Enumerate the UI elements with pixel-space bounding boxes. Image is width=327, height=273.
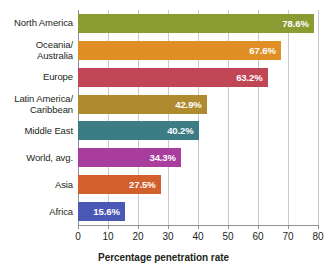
bar-row: Europe63.2% — [0, 64, 327, 91]
x-tick-label: 60 — [252, 231, 263, 242]
category-label-line: Latin America/ — [0, 94, 73, 105]
x-tick-20 — [138, 225, 139, 229]
category-label: Latin America/Caribbean — [0, 94, 73, 115]
bar[interactable]: 67.6% — [78, 41, 281, 60]
category-label: Africa — [0, 206, 73, 217]
bar-value-label: 34.3% — [149, 152, 180, 163]
bar-row: Asia27.5% — [0, 171, 327, 198]
category-label-line: Caribbean — [0, 104, 73, 115]
bar-value-label: 15.6% — [93, 206, 124, 217]
bar[interactable]: 78.6% — [78, 14, 314, 33]
category-label-line: Africa — [0, 206, 73, 217]
bar-value-label: 67.6% — [249, 45, 280, 56]
x-tick-70 — [288, 225, 289, 229]
category-label-line: North America — [0, 18, 73, 29]
bar-value-label: 63.2% — [236, 72, 267, 83]
x-tick-label: 70 — [282, 231, 293, 242]
bar-row: World, avg.34.3% — [0, 144, 327, 171]
category-label: Oceania/Australia — [0, 40, 73, 61]
category-label: North America — [0, 18, 73, 29]
x-tick-0 — [78, 225, 79, 229]
bar[interactable]: 63.2% — [78, 68, 268, 87]
bar-value-label: 78.6% — [282, 18, 313, 29]
x-tick-label: 20 — [132, 231, 143, 242]
bar-chart: North America78.6%Oceania/Australia67.6%… — [0, 0, 327, 273]
x-tick-30 — [168, 225, 169, 229]
cut-off-title-remnant — [120, 0, 320, 5]
bar-row: Oceania/Australia67.6% — [0, 37, 327, 64]
bar-wrapper: 67.6% — [78, 41, 318, 60]
bar-wrapper: 34.3% — [78, 148, 318, 167]
category-label: Europe — [0, 72, 73, 83]
x-tick-label: 30 — [162, 231, 173, 242]
bar-wrapper: 40.2% — [78, 121, 318, 140]
category-label-line: Asia — [0, 179, 73, 190]
bar-wrapper: 15.6% — [78, 202, 318, 221]
x-axis-title: Percentage penetration rate — [0, 252, 327, 263]
bar-rows: North America78.6%Oceania/Australia67.6%… — [0, 10, 327, 225]
category-label-line: Europe — [0, 72, 73, 83]
x-tick-label: 80 — [312, 231, 323, 242]
bar[interactable]: 40.2% — [78, 121, 199, 140]
bar-wrapper: 27.5% — [78, 175, 318, 194]
x-tick-label: 50 — [222, 231, 233, 242]
bar[interactable]: 15.6% — [78, 202, 125, 221]
x-tick-10 — [108, 225, 109, 229]
bar-value-label: 40.2% — [167, 125, 198, 136]
category-label: Asia — [0, 179, 73, 190]
x-tick-50 — [228, 225, 229, 229]
bar-row: Middle East40.2% — [0, 118, 327, 145]
bar[interactable]: 27.5% — [78, 175, 161, 194]
bar-row: North America78.6% — [0, 10, 327, 37]
bar-row: Africa15.6% — [0, 198, 327, 225]
x-tick-80 — [318, 225, 319, 229]
bar-wrapper: 63.2% — [78, 68, 318, 87]
x-tick-label: 40 — [192, 231, 203, 242]
bar[interactable]: 34.3% — [78, 148, 181, 167]
category-label-line: Australia — [0, 50, 73, 61]
x-tick-60 — [258, 225, 259, 229]
category-label-line: Oceania/ — [0, 40, 73, 51]
x-tick-label: 0 — [75, 231, 81, 242]
bar[interactable]: 42.9% — [78, 95, 207, 114]
bar-row: Latin America/Caribbean42.9% — [0, 91, 327, 118]
bar-wrapper: 42.9% — [78, 95, 318, 114]
bar-value-label: 42.9% — [175, 99, 206, 110]
category-label-line: World, avg. — [0, 153, 73, 164]
bar-wrapper: 78.6% — [78, 14, 318, 33]
x-tick-40 — [198, 225, 199, 229]
bar-value-label: 27.5% — [129, 179, 160, 190]
category-label: Middle East — [0, 126, 73, 137]
category-label: World, avg. — [0, 153, 73, 164]
x-tick-label: 10 — [102, 231, 113, 242]
category-label-line: Middle East — [0, 126, 73, 137]
